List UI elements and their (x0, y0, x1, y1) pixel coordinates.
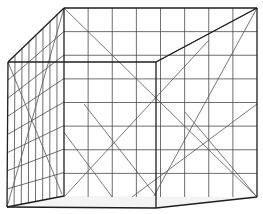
diagonal-lines (7, 8, 257, 207)
edge-front-left (7, 62, 8, 207)
wireframe-canvas (0, 0, 263, 214)
back-diagonal (185, 112, 257, 197)
floor-plane (7, 196, 257, 208)
wireframe-diagram (0, 0, 263, 214)
back-diagonal (132, 104, 257, 197)
